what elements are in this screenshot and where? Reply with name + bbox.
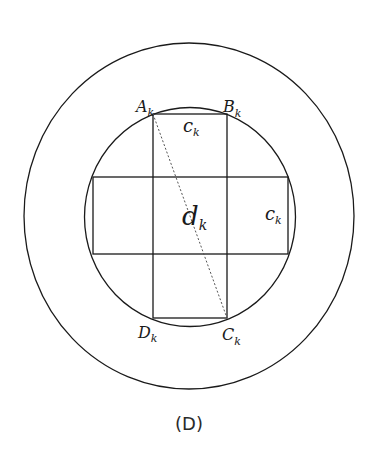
- label-d: Dk: [137, 323, 158, 345]
- label-c-right: ck: [265, 203, 282, 227]
- label-c-top: ck: [183, 115, 200, 139]
- figure-caption: (D): [175, 413, 203, 434]
- label-d-center: dk: [182, 201, 207, 233]
- concentric-circles-diagram: Ak Bk ck dk ck Dk Ck (D): [0, 0, 374, 468]
- label-c: Ck: [222, 325, 241, 348]
- label-a: Ak: [134, 97, 155, 119]
